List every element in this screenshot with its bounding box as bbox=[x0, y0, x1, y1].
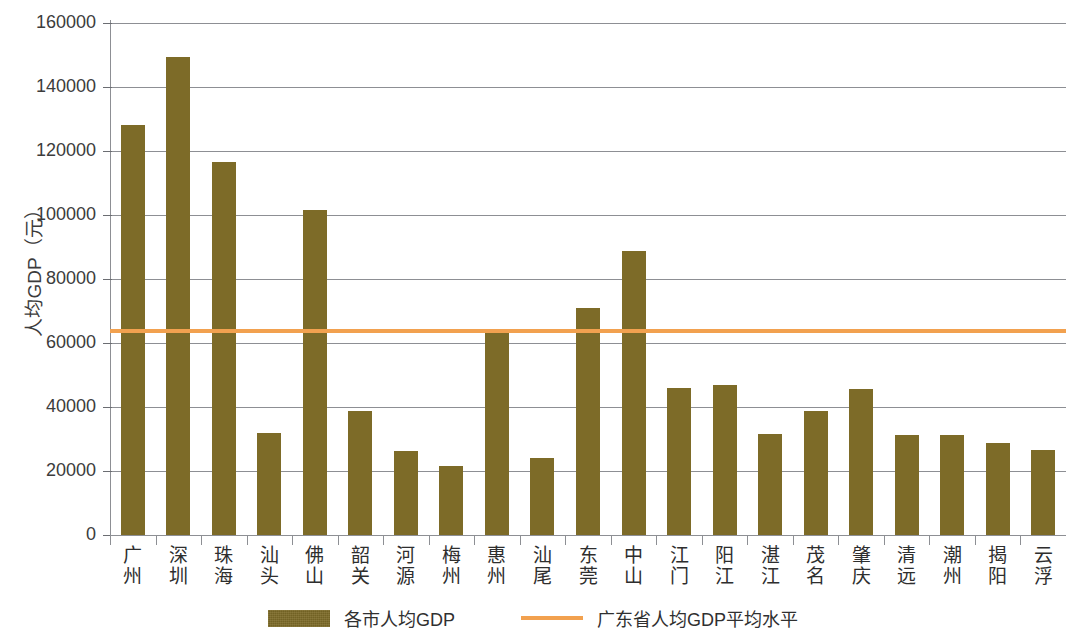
x-axis-tick bbox=[110, 536, 111, 545]
x-axis-tick-label: 河源 bbox=[393, 545, 419, 587]
x-axis-tick-label: 梅州 bbox=[438, 545, 464, 587]
y-axis-tick-label: 140000 bbox=[0, 76, 96, 97]
x-axis-tick bbox=[838, 536, 839, 545]
x-axis-tick-label: 广州 bbox=[120, 545, 146, 587]
x-axis-tick bbox=[429, 536, 430, 545]
x-axis-tick-label: 江门 bbox=[666, 545, 692, 587]
x-axis-tick bbox=[520, 536, 521, 545]
y-axis-tick-label: 160000 bbox=[0, 12, 96, 33]
x-axis-tick-label: 阳江 bbox=[712, 545, 738, 587]
x-axis-tick-label: 揭阳 bbox=[985, 545, 1011, 587]
legend: 各市人均GDP 广东省人均GDP平均水平 bbox=[0, 604, 1066, 632]
x-axis-tick-label: 惠州 bbox=[484, 545, 510, 587]
bar bbox=[713, 385, 737, 535]
x-axis-tick bbox=[338, 536, 339, 545]
bar bbox=[303, 210, 327, 535]
x-axis-tick-label: 云浮 bbox=[1030, 545, 1056, 587]
legend-bar-label: 各市人均GDP bbox=[344, 605, 455, 631]
bar bbox=[394, 451, 418, 535]
x-axis-tick bbox=[247, 536, 248, 545]
x-axis-tick bbox=[702, 536, 703, 545]
x-axis-tick bbox=[1020, 536, 1021, 545]
x-axis-tick-label: 清远 bbox=[894, 545, 920, 587]
bar bbox=[166, 57, 190, 535]
x-axis-line bbox=[110, 535, 1066, 536]
bar bbox=[758, 434, 782, 535]
x-axis-tick-label: 中山 bbox=[621, 545, 647, 587]
gdp-bar-chart: 人均GDP（元） 0200004000060000800001000001200… bbox=[0, 0, 1066, 637]
x-axis-tick bbox=[611, 536, 612, 545]
bar bbox=[576, 308, 600, 535]
plot-area bbox=[110, 23, 1066, 535]
x-axis-tick bbox=[656, 536, 657, 545]
bar bbox=[622, 251, 646, 535]
y-axis-tick-label: 40000 bbox=[0, 396, 96, 417]
bar bbox=[257, 433, 281, 535]
x-axis-tick-label: 潮州 bbox=[939, 545, 965, 587]
x-axis-tick-label: 汕尾 bbox=[529, 545, 555, 587]
y-axis-tick-label: 60000 bbox=[0, 332, 96, 353]
x-axis-tick-label: 东莞 bbox=[575, 545, 601, 587]
bar bbox=[212, 162, 236, 535]
bar bbox=[986, 443, 1010, 535]
x-axis-tick bbox=[793, 536, 794, 545]
x-axis-tick bbox=[975, 536, 976, 545]
x-axis-tick-label: 珠海 bbox=[211, 545, 237, 587]
bar bbox=[940, 435, 964, 535]
y-axis-tick-label: 80000 bbox=[0, 268, 96, 289]
bar bbox=[804, 411, 828, 535]
x-axis-tick bbox=[929, 536, 930, 545]
x-axis-tick-label: 深圳 bbox=[165, 545, 191, 587]
x-axis-tick-label: 汕头 bbox=[256, 545, 282, 587]
y-axis-tick-label: 20000 bbox=[0, 460, 96, 481]
legend-bar-swatch-icon bbox=[268, 610, 330, 627]
legend-line-swatch-icon bbox=[521, 616, 583, 620]
x-axis-tick-label: 佛山 bbox=[302, 545, 328, 587]
x-axis-tick bbox=[474, 536, 475, 545]
bar bbox=[485, 333, 509, 535]
x-axis-tick bbox=[884, 536, 885, 545]
x-axis-tick-label: 韶关 bbox=[347, 545, 373, 587]
y-axis-tick-label: 0 bbox=[0, 524, 96, 545]
x-axis-tick bbox=[383, 536, 384, 545]
bar bbox=[439, 466, 463, 535]
y-axis-tick-label: 100000 bbox=[0, 204, 96, 225]
legend-item-bar: 各市人均GDP bbox=[268, 605, 455, 631]
bar bbox=[530, 458, 554, 535]
x-axis-tick bbox=[292, 536, 293, 545]
bar bbox=[667, 388, 691, 535]
legend-line-label: 广东省人均GDP平均水平 bbox=[597, 605, 798, 631]
province-average-line bbox=[110, 329, 1066, 333]
x-axis-tick-label: 湛江 bbox=[757, 545, 783, 587]
x-axis-tick-label: 茂名 bbox=[803, 545, 829, 587]
x-axis-tick bbox=[201, 536, 202, 545]
legend-item-line: 广东省人均GDP平均水平 bbox=[521, 605, 798, 631]
bar bbox=[895, 435, 919, 535]
y-axis-tick-label: 120000 bbox=[0, 140, 96, 161]
bar bbox=[348, 411, 372, 535]
x-axis-tick-label: 肇庆 bbox=[848, 545, 874, 587]
bar bbox=[849, 389, 873, 535]
x-axis-tick bbox=[747, 536, 748, 545]
x-axis-tick bbox=[565, 536, 566, 545]
bar bbox=[1031, 450, 1055, 535]
x-axis-tick bbox=[156, 536, 157, 545]
